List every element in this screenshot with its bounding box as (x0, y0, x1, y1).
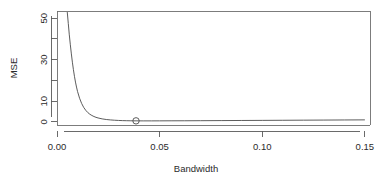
x-tick-label-0.10: 0.10 (253, 141, 272, 152)
y-axis-title: MSE (8, 58, 19, 79)
y-tick-label-0: 0 (38, 119, 49, 124)
plot-frame (57, 11, 370, 125)
x-axis-ticks (57, 131, 365, 137)
x-axis-title: Bandwidth (174, 163, 218, 174)
y-tick-label-30: 30 (38, 54, 49, 65)
x-tick-label-0.15: 0.15 (356, 141, 375, 152)
chart-canvas: 0103050 0.000.050.100.15 Bandwidth MSE (0, 0, 382, 185)
mse-curve (67, 12, 365, 121)
mse-bandwidth-chart: 0103050 0.000.050.100.15 Bandwidth MSE (0, 0, 382, 185)
x-tick-label-0.00: 0.00 (48, 141, 67, 152)
x-tick-label-0.05: 0.05 (150, 141, 169, 152)
y-tick-label-50: 50 (38, 13, 49, 24)
y-axis-ticks (51, 18, 57, 122)
y-tick-label-10: 10 (38, 96, 49, 107)
y-axis-tick-labels: 0103050 (38, 13, 49, 125)
x-axis-tick-labels: 0.000.050.100.15 (48, 141, 374, 152)
